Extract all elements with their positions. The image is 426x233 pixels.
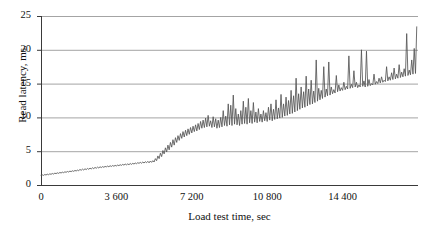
tick-marks-group — [37, 17, 41, 186]
data-series-line — [41, 27, 417, 176]
read-latency-chart: 0510152025 03 6007 20010 80014 400 Read … — [0, 0, 426, 233]
x-tick-label-10800: 10 800 — [237, 191, 297, 202]
x-axis-title: Load test time, sec — [41, 210, 418, 222]
y-axis-title: Read latency, ms. — [16, 24, 28, 144]
x-tick-label-3600: 3 600 — [86, 191, 146, 202]
x-tick-label-14400: 14 400 — [313, 191, 373, 202]
y-tick-label-25: 25 — [7, 9, 31, 20]
x-tick-label-0: 0 — [11, 191, 71, 202]
x-tick-label-7200: 7 200 — [162, 191, 222, 202]
y-tick-label-0: 0 — [7, 178, 31, 189]
y-tick-label-5: 5 — [7, 144, 31, 155]
gridlines-group — [41, 17, 418, 186]
